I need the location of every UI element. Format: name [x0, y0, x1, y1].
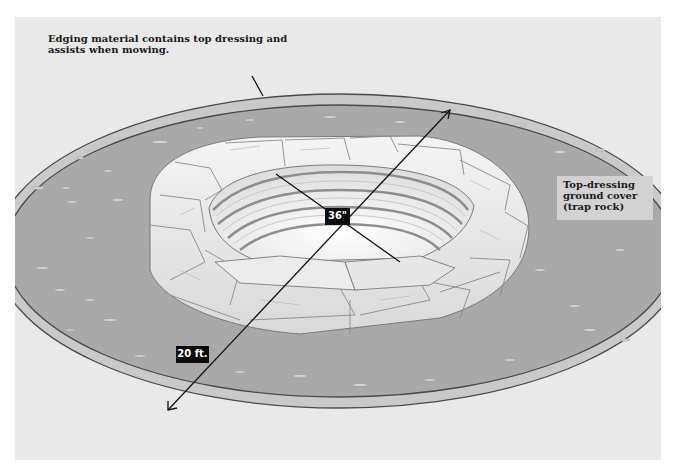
area-diameter-tag: 20 ft.: [176, 346, 209, 363]
edging-leader-line: [252, 76, 263, 96]
fire-well: [209, 165, 474, 290]
top-dressing-line3: (trap rock): [563, 201, 637, 212]
diagram-panel: Edging material contains top dressing an…: [15, 17, 661, 460]
pit-diameter-tag: 36": [325, 208, 350, 225]
edging-callout: Edging material contains top dressing an…: [48, 33, 298, 55]
top-dressing-line1: Top-dressing: [563, 179, 637, 190]
fire-pit-illustration: [15, 17, 661, 460]
top-dressing-line2: ground cover: [563, 190, 637, 201]
top-dressing-callout: Top-dressing ground cover (trap rock): [557, 176, 653, 220]
